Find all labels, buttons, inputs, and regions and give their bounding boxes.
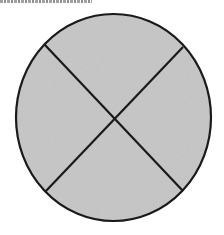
divided-circle-diagram [0,0,224,235]
